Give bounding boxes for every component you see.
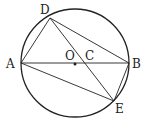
- label-c: C: [85, 49, 94, 63]
- label-b: B: [132, 57, 141, 71]
- geometry-diagram: D A O C B E: [0, 0, 148, 128]
- label-d: D: [40, 3, 50, 17]
- label-e: E: [115, 102, 124, 116]
- segment-be: [114, 63, 129, 101]
- label-a: A: [5, 57, 15, 71]
- label-o: O: [65, 49, 75, 63]
- segment-ae: [21, 63, 114, 101]
- segment-de: [50, 18, 114, 101]
